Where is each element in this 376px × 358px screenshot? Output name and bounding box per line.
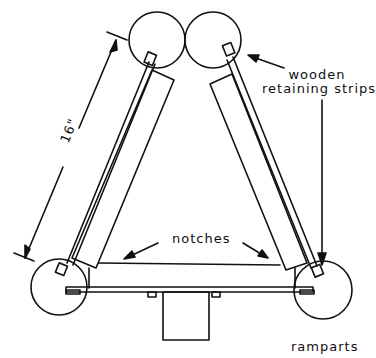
rampart-diagram xyxy=(0,0,376,358)
dimension-line xyxy=(14,32,127,261)
label-notches: notches xyxy=(172,232,230,246)
top-left-circle xyxy=(129,12,185,68)
diagram-canvas: wooden retaining strips notches ramparts… xyxy=(0,0,376,358)
base-box xyxy=(163,292,209,340)
top-right-circle xyxy=(185,12,241,68)
left-panel xyxy=(72,70,174,268)
label-wooden: wooden xyxy=(262,68,372,82)
platform-top xyxy=(99,263,280,265)
label-retaining-strips: retaining strips xyxy=(262,82,372,96)
label-ramparts: ramparts xyxy=(291,340,358,354)
